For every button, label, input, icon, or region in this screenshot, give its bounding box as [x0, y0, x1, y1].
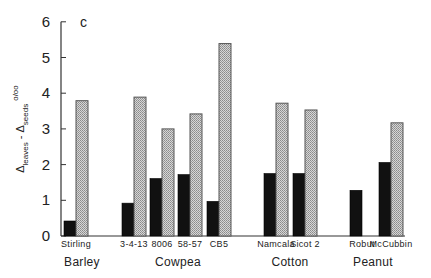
bar-solid — [122, 203, 134, 236]
bar-stippled — [276, 103, 288, 236]
bars — [64, 44, 403, 236]
category-label: Namcala — [257, 239, 295, 249]
bar-stippled — [219, 44, 231, 236]
category-label: Stirling — [61, 239, 91, 249]
bar-solid — [207, 201, 219, 236]
group-label: Cotton — [271, 255, 308, 269]
bar-stippled — [134, 97, 146, 236]
bar-solid — [293, 174, 305, 236]
category-label: 3-4-13 — [120, 239, 148, 249]
y-tick-label: 6 — [42, 13, 50, 30]
category-label: 58-57 — [178, 239, 203, 249]
y-tick-label: 0 — [42, 227, 50, 244]
y-tick-label: 2 — [42, 156, 50, 173]
bar-stippled — [391, 123, 403, 236]
panel-label: c — [80, 14, 87, 30]
bar-stippled — [190, 114, 202, 236]
bar-stippled — [76, 101, 88, 236]
y-tick-label: 1 — [42, 191, 50, 208]
bar-solid — [178, 175, 190, 236]
bar-solid — [64, 221, 76, 236]
category-label: CB5 — [210, 239, 228, 249]
category-label: McCubbin — [370, 239, 413, 249]
bar-solid — [150, 179, 162, 236]
bar-solid — [379, 162, 391, 236]
bar-stippled — [305, 110, 317, 236]
y-axis-title: Δleaves - Δseedso/oo — [11, 85, 30, 173]
y-tick-label: 4 — [42, 84, 50, 101]
bar-stippled — [162, 129, 174, 236]
category-label: Sicot 2 — [290, 239, 320, 249]
group-label: Peanut — [353, 255, 393, 269]
y-tick-label: 3 — [42, 120, 50, 137]
category-label: 8006 — [151, 239, 172, 249]
group-label: Cowpea — [155, 255, 201, 269]
y-tick-label: 5 — [42, 49, 50, 66]
bar-chart: 0123456cΔleaves - Δseedso/ooStirling3-4-… — [0, 0, 431, 278]
bar-solid — [350, 190, 362, 236]
bar-solid — [264, 174, 276, 236]
group-label: Barley — [64, 255, 100, 269]
